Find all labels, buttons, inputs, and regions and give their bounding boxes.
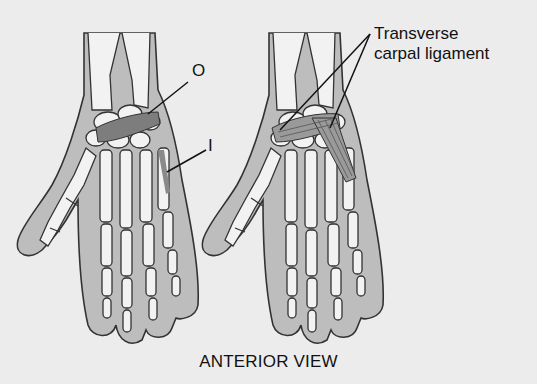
left-hand-skeleton bbox=[17, 33, 198, 343]
right-hand-skeleton bbox=[202, 33, 383, 343]
ligament-label-line1: Transverse bbox=[374, 25, 458, 42]
anatomy-figure: O I Transverse carpal ligament ANTERIOR … bbox=[0, 0, 537, 384]
view-caption: ANTERIOR VIEW bbox=[0, 352, 537, 372]
origin-label: O bbox=[192, 62, 205, 79]
ligament-label-line2: carpal ligament bbox=[374, 45, 489, 62]
insertion-label: I bbox=[208, 137, 213, 154]
